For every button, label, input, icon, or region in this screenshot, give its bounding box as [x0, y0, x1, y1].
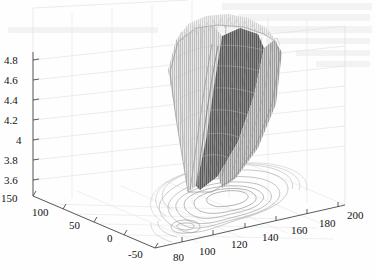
x-axis-line: [155, 205, 345, 248]
z-tick-label: 4.2: [4, 115, 18, 126]
z-tick-label: 4.6: [4, 75, 18, 86]
y-axis-ticks: [33, 191, 158, 248]
z-tick-label: 4: [16, 135, 22, 146]
x-tick-label: 120: [231, 239, 248, 250]
y-tick-label: -50: [128, 249, 143, 260]
plot-svg: [0, 0, 375, 280]
x-tick-label: 100: [199, 246, 216, 257]
x-tick-label: 160: [291, 225, 308, 236]
mesh-surface: [160, 10, 300, 200]
z-tick-label: 4.4: [4, 95, 18, 106]
x-tick-label: 200: [347, 210, 364, 221]
x-tick-label: 180: [319, 218, 336, 229]
x-tick-label: 140: [262, 232, 279, 243]
z-tick-label: 3.6: [4, 175, 18, 186]
z-axis-ticks: [33, 59, 39, 180]
y-tick-label: 150: [1, 193, 18, 204]
z-tick-label: 4.8: [4, 55, 18, 66]
x-tick-label: 80: [173, 252, 184, 263]
y-tick-label: 50: [69, 220, 80, 231]
y-tick-label: 100: [32, 207, 49, 218]
y-tick-label: 0: [107, 233, 113, 244]
figure-canvas: 4.8 4.6 4.4 4.2 4 3.8 3.6 150 100 50 0 -…: [0, 0, 375, 280]
z-tick-label: 3.8: [4, 155, 18, 166]
